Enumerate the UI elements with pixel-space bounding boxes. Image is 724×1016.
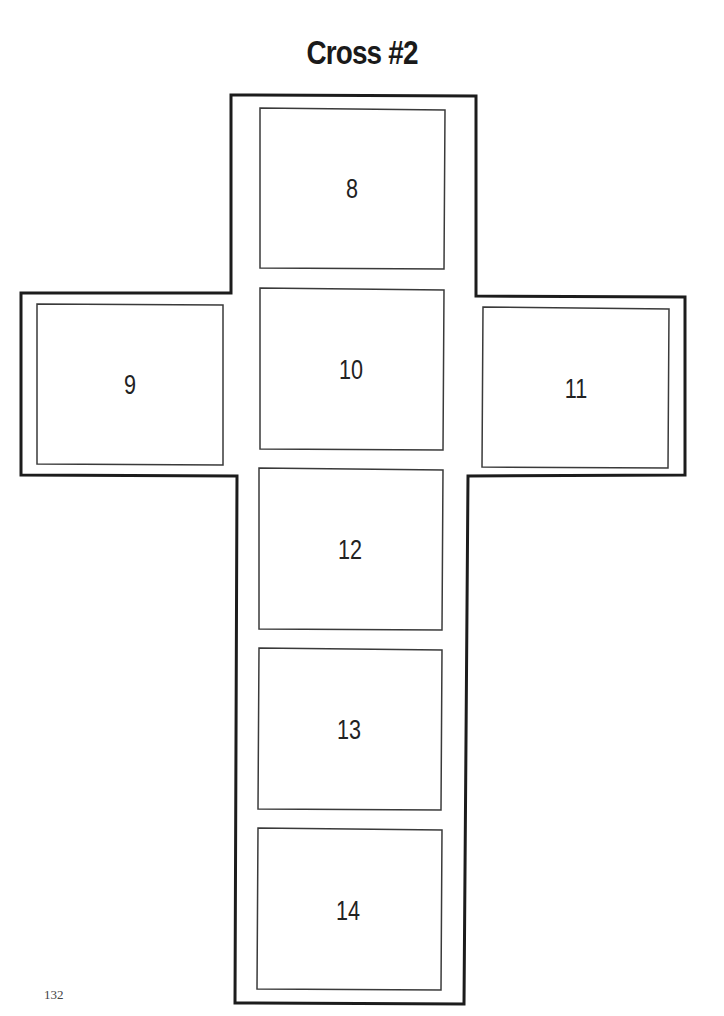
box-label-13: 13 (337, 715, 361, 746)
box-label-12: 12 (338, 535, 362, 566)
page-number: 132 (44, 987, 64, 1003)
box-label-9: 9 (124, 370, 136, 401)
box-label-10: 10 (339, 355, 363, 386)
box-label-8: 8 (346, 174, 358, 205)
cross-outline (0, 0, 724, 1016)
box-label-14: 14 (336, 896, 360, 927)
box-label-11: 11 (565, 374, 587, 405)
